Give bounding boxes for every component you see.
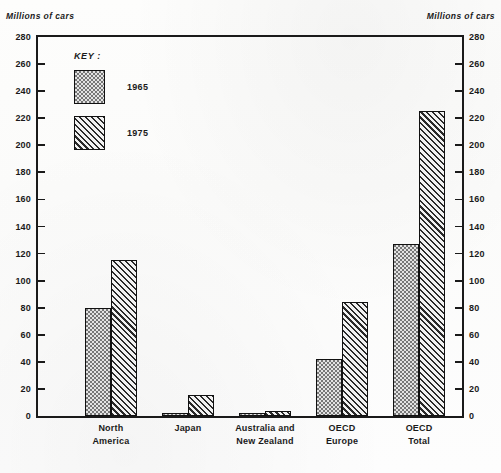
bar-1975 (342, 302, 368, 416)
plot-area: 0020204040606080801001001201201401401601… (36, 35, 464, 418)
legend-entry-1965: 1965 (74, 70, 224, 104)
tick-label-right-280: 280 (469, 32, 485, 41)
bar-group (158, 395, 218, 417)
bar-group (81, 260, 141, 416)
tick-label-right-240: 240 (469, 86, 485, 95)
legend-label-1975: 1975 (127, 128, 148, 138)
tick-label-left-40: 40 (21, 358, 31, 367)
tick-label-left-20: 20 (21, 385, 31, 394)
tick-label-left-0: 0 (26, 412, 31, 421)
category-label: OECDTotal (374, 422, 464, 447)
tick-label-left-200: 200 (15, 141, 31, 150)
tick-label-right-80: 80 (469, 303, 479, 312)
tick-label-left-120: 120 (15, 249, 31, 258)
legend-swatch-1975 (74, 116, 105, 150)
bar-1965 (85, 308, 111, 417)
tick-label-right-140: 140 (469, 222, 485, 231)
chart-legend: KEY : 1965 1975 (74, 51, 224, 162)
tick-label-right-40: 40 (469, 358, 479, 367)
bar-1965 (162, 413, 188, 416)
tick-label-right-20: 20 (469, 385, 479, 394)
tick-label-left-240: 240 (15, 86, 31, 95)
bar-1975 (419, 111, 445, 416)
bar-group (235, 411, 295, 416)
tick-label-right-220: 220 (469, 114, 485, 123)
y-axis-caption-left: Millions of cars (6, 11, 74, 21)
legend-label-1965: 1965 (127, 82, 148, 92)
tick-label-right-120: 120 (469, 249, 485, 258)
bar-1965 (393, 244, 419, 416)
tick-label-left-100: 100 (15, 276, 31, 285)
tick-label-right-260: 260 (469, 59, 485, 68)
tick-label-right-100: 100 (469, 276, 485, 285)
chart-page: Millions of cars Millions of cars 002020… (0, 0, 501, 473)
tick-label-right-160: 160 (469, 195, 485, 204)
bar-group (389, 111, 449, 416)
bar-group (312, 302, 372, 416)
tick-label-left-140: 140 (15, 222, 31, 231)
legend-title: KEY : (74, 51, 224, 61)
tick-label-left-280: 280 (15, 32, 31, 41)
tick-label-left-80: 80 (21, 303, 31, 312)
bar-1965 (239, 413, 265, 416)
tick-label-left-60: 60 (21, 331, 31, 340)
bar-1965 (316, 359, 342, 416)
legend-entry-1975: 1975 (74, 116, 224, 150)
axis-line-bottom (36, 416, 464, 418)
bar-1975 (188, 395, 214, 417)
tick-label-left-260: 260 (15, 59, 31, 68)
tick-label-right-0: 0 (469, 412, 474, 421)
tick-label-left-220: 220 (15, 114, 31, 123)
legend-swatch-1965 (74, 70, 105, 104)
tick-label-right-180: 180 (469, 168, 485, 177)
bar-1975 (265, 411, 291, 416)
tick-label-right-200: 200 (469, 141, 485, 150)
y-axis-caption-right: Millions of cars (427, 11, 495, 21)
tick-label-right-60: 60 (469, 331, 479, 340)
tick-label-left-160: 160 (15, 195, 31, 204)
bar-1975 (111, 260, 137, 416)
tick-label-left-180: 180 (15, 168, 31, 177)
